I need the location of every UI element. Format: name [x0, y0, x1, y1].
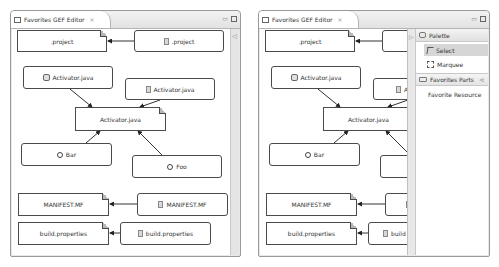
close-icon[interactable]: × — [90, 16, 95, 23]
palette-icon — [419, 32, 426, 38]
entry-label: Favorite Resource — [428, 91, 481, 98]
diagram-node[interactable]: Activator.java — [125, 78, 215, 100]
node-label: MANIFEST.MF — [43, 201, 83, 208]
maximize-icon[interactable] — [231, 16, 237, 22]
node-label: .project — [299, 38, 322, 45]
diagram-node[interactable]: Activator.java — [271, 66, 361, 89]
tool-label: Marquee — [437, 61, 463, 68]
class-icon — [57, 152, 63, 158]
node-label: Bar — [66, 151, 76, 158]
palette-entry-favorite-resource[interactable]: Favorite Resource — [425, 88, 484, 100]
maximize-icon[interactable] — [480, 16, 486, 22]
file-icon — [158, 201, 163, 208]
vertical-scrollbar[interactable]: ◁ — [230, 29, 239, 255]
node-label: build.properties — [288, 230, 335, 237]
node-label: MANIFEST.MF — [166, 201, 206, 208]
diagram-node[interactable]: .project — [134, 30, 224, 52]
node-label: build.properties — [40, 230, 87, 237]
marquee-icon — [427, 61, 434, 68]
tab-label: Favorites GEF Editor — [272, 16, 333, 23]
node-label: .project — [51, 38, 74, 45]
file-icon — [164, 38, 169, 45]
minimize-icon[interactable]: ▭ — [471, 15, 477, 22]
palette-drawer-favorites-parts[interactable]: Favorites Parts ⊲ — [416, 73, 488, 86]
arrow-icon — [426, 47, 433, 54]
pin-icon[interactable]: ⊲ — [479, 76, 484, 83]
java-project-icon — [43, 74, 50, 81]
file-icon — [138, 230, 143, 237]
diagram-node[interactable]: Activator.java — [75, 107, 166, 131]
node-label: Activator.java — [348, 116, 389, 123]
node-label: Bar — [314, 151, 324, 158]
file-icon — [396, 86, 401, 93]
palette-expand-arrow-icon[interactable]: ◁ — [232, 32, 237, 39]
diagram-node[interactable]: Bar — [269, 143, 360, 166]
diagram-node[interactable]: .project — [265, 30, 355, 52]
palette-tool-marquee[interactable]: Marquee — [424, 58, 466, 70]
palette-collapse-arrow-icon[interactable]: ▷ — [409, 33, 414, 40]
node-label: build.properties — [146, 230, 193, 237]
class-icon — [167, 164, 173, 170]
diagram-node[interactable]: build.properties — [266, 222, 357, 245]
class-icon — [305, 152, 311, 158]
node-label: MANIFEST.MF — [291, 201, 331, 208]
tool-label: Select — [436, 47, 455, 54]
node-label: Activator.java — [53, 74, 94, 81]
diagram-canvas[interactable]: .project Activator.java Ac Activator.jav… — [260, 29, 488, 255]
diagram-node[interactable]: Bar — [21, 143, 112, 166]
editor-icon — [14, 17, 21, 23]
diagram-node[interactable]: build.properties — [120, 222, 211, 245]
close-icon[interactable]: × — [338, 16, 343, 23]
node-label: Foo — [176, 163, 187, 170]
editor-panel-left: Favorites GEF Editor × ▭ .project — [10, 10, 241, 257]
palette-header[interactable]: Palette — [416, 29, 488, 42]
editor-icon — [262, 17, 269, 23]
java-project-icon — [291, 74, 298, 81]
node-label: .project — [172, 38, 195, 45]
palette-tool-select[interactable]: Select — [424, 44, 488, 56]
node-label: build — [391, 230, 406, 237]
diagram-node[interactable]: Activator.java — [23, 66, 113, 89]
node-label: Activator.java — [154, 86, 195, 93]
diagram-node[interactable]: MANIFEST.MF — [266, 193, 357, 216]
diagram-node[interactable]: .project — [17, 30, 107, 52]
palette-header-label: Palette — [429, 32, 450, 39]
editor-panel-right: Favorites GEF Editor × ▭ .project — [258, 10, 490, 257]
tab-favorites-gef-editor[interactable]: Favorites GEF Editor × — [259, 11, 359, 28]
minimize-icon[interactable]: ▭ — [222, 15, 228, 22]
palette: Palette Select Marquee Favorites Parts ⊲… — [415, 29, 488, 255]
file-icon — [383, 230, 388, 237]
diagram-canvas[interactable]: .project .project Activator.java Activat… — [12, 29, 231, 255]
diagram-node[interactable]: MANIFEST.MF — [18, 193, 109, 216]
node-label: Activator.java — [100, 116, 141, 123]
node-label: Activator.java — [301, 74, 342, 81]
diagram-node[interactable]: MANIFEST.MF — [137, 193, 228, 216]
diagram-node[interactable]: Activator.java — [323, 107, 414, 131]
tab-favorites-gef-editor[interactable]: Favorites GEF Editor × — [11, 11, 111, 28]
tab-label: Favorites GEF Editor — [24, 16, 85, 23]
diagram-node[interactable]: build.properties — [18, 222, 109, 245]
file-icon — [146, 86, 151, 93]
tab-bar: Favorites GEF Editor × ▭ — [259, 11, 489, 29]
drawer-icon — [419, 77, 427, 82]
tab-bar: Favorites GEF Editor × ▭ — [11, 11, 240, 29]
diagram-node[interactable]: Foo — [132, 155, 222, 178]
drawer-label: Favorites Parts — [430, 76, 474, 83]
